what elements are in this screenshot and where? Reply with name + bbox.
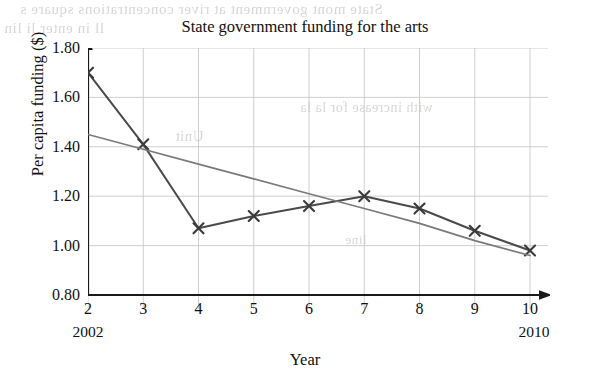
x-tick-label: 9 bbox=[455, 300, 495, 318]
y-tick-label: 1.40 bbox=[24, 138, 80, 156]
x-tick-label: 6 bbox=[289, 300, 329, 318]
x-tick-label: 2 bbox=[68, 300, 108, 318]
x-tick-label: 5 bbox=[234, 300, 274, 318]
chart-title: State government funding for the arts bbox=[0, 18, 610, 36]
y-tick-label: 1.60 bbox=[24, 88, 80, 106]
y-tick-label: 1.80 bbox=[24, 39, 80, 57]
x-tick-label: 8 bbox=[400, 300, 440, 318]
scan-bleed-text-1: State mont government at river concentra… bbox=[20, 1, 383, 18]
x-axis-start-year: 2002 bbox=[58, 323, 118, 341]
x-tick-label: 7 bbox=[344, 300, 384, 318]
x-tick-label: 10 bbox=[510, 300, 550, 318]
chart-canvas bbox=[88, 48, 550, 310]
gridlines bbox=[88, 48, 548, 309]
y-tick-label: 1.00 bbox=[24, 237, 80, 255]
x-axis-arrowhead bbox=[539, 290, 550, 300]
axis-lines bbox=[88, 48, 550, 300]
data-series-group bbox=[88, 68, 535, 256]
x-tick-label: 4 bbox=[179, 300, 219, 318]
x-tick-label: 3 bbox=[123, 300, 163, 318]
plot-area bbox=[88, 48, 530, 295]
y-tick-label: 1.20 bbox=[24, 187, 80, 205]
x-axis-label: Year bbox=[0, 350, 610, 370]
y-axis-arrowhead bbox=[88, 48, 93, 50]
x-axis-end-year: 2010 bbox=[504, 323, 564, 341]
